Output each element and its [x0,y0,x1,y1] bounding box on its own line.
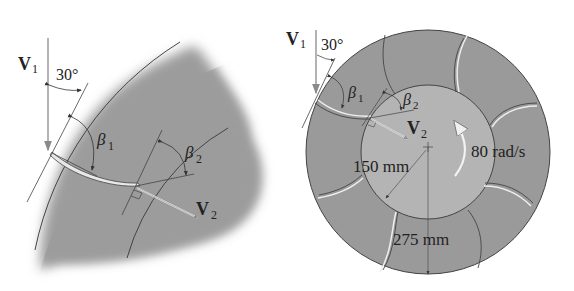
outer-radius-label: 275 mm [393,230,449,249]
inner-radius-label: 150 mm [353,157,409,176]
angle-30-arc [317,55,334,60]
beta2-label: β [184,143,194,162]
v1-label: V [286,29,299,49]
right-panel: V 1 30° β 1 β 2 V 2 150 mm 275 mm 80 rad… [286,29,550,274]
beta2-subscript: 2 [196,152,202,166]
v2-subscript: 2 [211,208,217,222]
left-panel: V 1 30° β 1 β 2 V 2 [18,38,262,270]
beta1-label: β [347,84,356,102]
beta1-subscript: 1 [108,139,114,153]
beta2-label: β [402,91,411,109]
v2-label: V [407,118,420,138]
beta1-label: β [96,130,106,149]
angle-30-arc [49,85,81,90]
angle-30-label: 30° [321,36,343,53]
v2-subscript: 2 [421,127,427,141]
v1-label: V [18,54,31,74]
beta2-subscript: 2 [413,99,419,111]
beta1-subscript: 1 [358,92,364,104]
angle-30-label: 30° [56,66,78,83]
impeller-diagram: V 1 30° β 1 β 2 V 2 [0,0,574,291]
v1-subscript: 1 [32,62,38,76]
v1-subscript: 1 [300,37,306,51]
v2-label: V [196,199,209,219]
angular-velocity-label: 80 rad/s [471,142,525,161]
